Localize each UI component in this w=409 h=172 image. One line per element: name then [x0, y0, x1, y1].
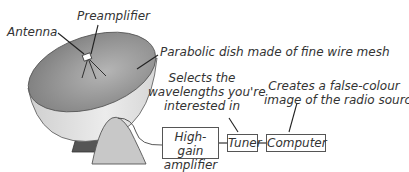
preamplifier-label: Preamplifier [77, 9, 150, 23]
computer-pointer [289, 103, 297, 132]
tuner-note-line3: interested in [148, 99, 256, 113]
dish-label: Parabolic dish made of fine wire mesh [160, 45, 390, 59]
tuner-note-line1: Selects the [148, 71, 256, 85]
tuner-block: Tuner [227, 134, 258, 152]
antenna-label: Antenna [7, 25, 57, 39]
tuner-note: Selects the wavelengths you're intereste… [148, 71, 256, 113]
computer-note-line1: Creates a false-colour [264, 79, 404, 93]
computer-note-line2: image of the radio source [264, 93, 404, 107]
high-gain-amplifier-block: High-gain amplifier [162, 127, 219, 159]
tuner-pointer [229, 118, 238, 132]
computer-note: Creates a false-colour image of the radi… [264, 79, 404, 107]
amplifier-line2: amplifier [163, 158, 218, 172]
computer-block: Computer [266, 134, 326, 152]
tuner-note-line2: wavelengths you're [148, 85, 256, 99]
amplifier-line1: High-gain [163, 130, 218, 158]
